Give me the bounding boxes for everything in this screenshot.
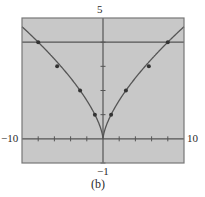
data-point-marker bbox=[124, 89, 128, 93]
y-max-label: 5 bbox=[97, 4, 103, 15]
data-point-marker bbox=[93, 113, 97, 117]
data-point-marker bbox=[166, 40, 170, 44]
figure-caption: (b) bbox=[91, 179, 105, 190]
data-point-marker bbox=[147, 64, 151, 68]
data-point-marker bbox=[55, 64, 59, 68]
data-point-marker bbox=[78, 89, 82, 93]
data-point-marker bbox=[109, 113, 113, 117]
x-min-label: −10 bbox=[1, 133, 18, 144]
x-max-label: 10 bbox=[187, 133, 198, 144]
data-point-marker bbox=[36, 40, 40, 44]
y-min-label: −1 bbox=[97, 166, 109, 177]
